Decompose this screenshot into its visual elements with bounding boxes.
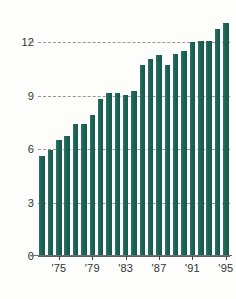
bar-1991 xyxy=(190,42,196,256)
bar-1985 xyxy=(140,65,146,256)
x-tick-mark-'83 xyxy=(126,256,127,260)
bar-1973 xyxy=(39,156,45,256)
x-tick-label-'79: '79 xyxy=(85,262,100,274)
bar-1994 xyxy=(215,29,221,256)
bar-1979 xyxy=(90,115,96,256)
x-tick-label-'83: '83 xyxy=(118,262,133,274)
bar-1978 xyxy=(81,124,87,256)
x-tick-label-'87: '87 xyxy=(152,262,167,274)
bar-1987 xyxy=(156,55,162,256)
x-tick-mark-'87 xyxy=(159,256,160,260)
x-tick-label-'95: '95 xyxy=(218,262,233,274)
bar-1989 xyxy=(173,54,179,256)
bar-1984 xyxy=(131,91,137,256)
bar-1988 xyxy=(165,65,171,256)
bar-1992 xyxy=(198,41,204,256)
y-tick-mark-6 xyxy=(29,149,34,150)
bar-1980 xyxy=(98,99,104,256)
x-axis-tick-marks xyxy=(38,256,230,261)
bar-1983 xyxy=(123,95,129,256)
bar-1975 xyxy=(56,140,62,256)
x-tick-label-'91: '91 xyxy=(185,262,200,274)
y-axis-tick-labels: 036912 xyxy=(0,14,34,256)
bar-1986 xyxy=(148,59,154,257)
bars-group xyxy=(38,14,230,256)
y-tick-mark-9 xyxy=(29,95,34,96)
x-tick-mark-'75 xyxy=(59,256,60,260)
bar-1976 xyxy=(64,136,70,256)
plot-area xyxy=(38,14,230,256)
bar-1995 xyxy=(223,23,229,256)
y-tick-mark-3 xyxy=(29,202,34,203)
y-tick-mark-12 xyxy=(29,42,34,43)
bar-1993 xyxy=(206,41,212,256)
bar-1981 xyxy=(106,93,112,256)
bar-1977 xyxy=(73,124,79,256)
x-tick-label-'75: '75 xyxy=(51,262,66,274)
x-axis-tick-labels: '75'79'83'87'91'95 xyxy=(38,262,230,282)
x-tick-mark-'95 xyxy=(226,256,227,260)
bar-chart: 036912 '75'79'83'87'91'95 xyxy=(0,0,236,299)
x-tick-mark-'91 xyxy=(192,256,193,260)
bar-1974 xyxy=(48,150,54,256)
x-tick-mark-'79 xyxy=(92,256,93,260)
bar-1982 xyxy=(115,93,121,256)
bar-1990 xyxy=(181,51,187,256)
